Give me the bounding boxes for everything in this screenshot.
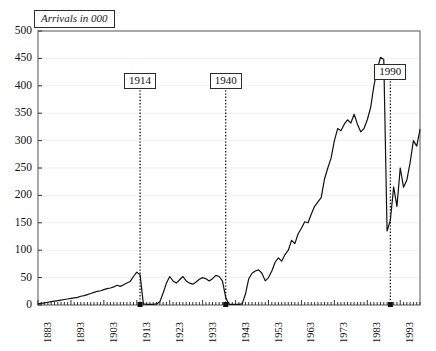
x-axis-tick-label: 1963 [305, 322, 316, 343]
y-axis-tick-label: 450 [0, 52, 32, 63]
x-axis-tick-label: 1883 [42, 322, 53, 343]
y-axis-tick-label: 350 [0, 107, 32, 118]
y-axis-tick-label: 300 [0, 135, 32, 146]
x-axis-tick-label: 1923 [174, 322, 185, 343]
event-label-1914: 1914 [124, 73, 156, 89]
event-label-1990: 1990 [374, 64, 406, 80]
x-axis-tick-label: 1943 [240, 322, 251, 343]
arrivals-line-chart: Arrivals in 000 050100150200250300350400… [0, 0, 436, 351]
x-axis-tick-label: 1903 [108, 322, 119, 343]
y-axis-tick-label: 0 [0, 299, 32, 310]
y-axis-tick-label: 200 [0, 189, 32, 200]
event-label-1940: 1940 [210, 73, 242, 89]
x-axis-tick-label: 1893 [75, 322, 86, 343]
x-axis-tick-label: 1913 [141, 322, 152, 343]
y-axis-tick-label: 50 [0, 272, 32, 283]
arrivals-series-line [38, 57, 420, 304]
plot-canvas [0, 0, 436, 351]
x-axis-tick-label: 1953 [273, 322, 284, 343]
y-tick-marks [38, 31, 42, 305]
gridlines [38, 58, 420, 277]
y-axis-tick-label: 400 [0, 80, 32, 91]
x-axis-tick-label: 1993 [404, 322, 415, 343]
y-axis-tick-label: 250 [0, 162, 32, 173]
y-axis-tick-label: 100 [0, 244, 32, 255]
event-marker-lines [138, 78, 393, 307]
y-axis-tick-label: 150 [0, 217, 32, 228]
x-axis-tick-label: 1983 [371, 322, 382, 343]
x-axis-tick-label: 1973 [338, 322, 349, 343]
x-axis-tick-label: 1933 [207, 322, 218, 343]
y-axis-tick-label: 500 [0, 25, 32, 36]
